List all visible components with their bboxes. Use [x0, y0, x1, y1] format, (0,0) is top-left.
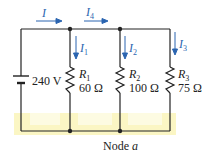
current-label-i1: I1: [80, 42, 88, 57]
current-label-i4: I4: [86, 6, 94, 21]
current-label-i3: I3: [179, 38, 187, 53]
current-label-i: I: [42, 7, 46, 19]
current-label-i2: I2: [129, 42, 137, 57]
r3-value: 75 Ω: [178, 82, 202, 94]
resistor-r1-icon: [66, 67, 74, 93]
r2-value: 100 Ω: [129, 82, 159, 94]
r1-value: 60 Ω: [79, 82, 103, 94]
source-voltage-label: 240 V: [32, 75, 61, 87]
battery-icon: [13, 76, 29, 83]
resistor-r3-icon: [166, 67, 174, 93]
current-arrows: [36, 19, 178, 60]
resistor-r2-icon: [116, 67, 124, 93]
node-a-label: Node a: [103, 140, 138, 152]
